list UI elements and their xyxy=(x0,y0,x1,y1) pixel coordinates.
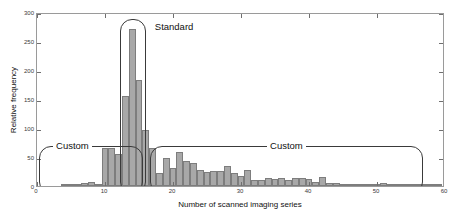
histogram-bar xyxy=(88,182,95,186)
histogram-bar xyxy=(312,182,319,186)
x-tick-mark xyxy=(105,182,106,186)
histogram-bar xyxy=(68,184,75,186)
x-tick-label: 0 xyxy=(34,188,37,194)
histogram-bar xyxy=(278,178,285,186)
histogram-bar xyxy=(183,161,190,186)
x-tick-mark xyxy=(309,14,310,18)
x-axis-label: Number of scanned imaging series xyxy=(36,200,444,209)
histogram-bar xyxy=(197,170,204,186)
annotation-custom-right-label: Custom xyxy=(267,140,306,151)
histogram-bar xyxy=(61,184,68,186)
x-tick-mark xyxy=(377,14,378,18)
annotation-custom-left-label: Custom xyxy=(53,140,92,151)
histogram-bar xyxy=(353,184,360,186)
histogram-bar xyxy=(156,173,163,186)
histogram-bar xyxy=(95,184,102,186)
annotation-standard-label: Standard xyxy=(152,21,197,32)
y-tick-mark xyxy=(37,130,41,131)
histogram-bar xyxy=(204,172,211,187)
y-tick-mark xyxy=(439,130,443,131)
histogram-bar xyxy=(163,158,170,186)
x-tick-label: 50 xyxy=(373,188,380,194)
y-tick-label: 300 xyxy=(24,10,34,16)
histogram-bar xyxy=(81,183,88,186)
x-tick-label: 40 xyxy=(305,188,312,194)
histogram-bar xyxy=(190,163,197,186)
histogram-bar xyxy=(401,184,408,186)
histogram-bar xyxy=(346,184,353,186)
x-tick-mark xyxy=(173,14,174,18)
y-tick-mark xyxy=(37,43,41,44)
y-tick-mark xyxy=(37,159,41,160)
histogram-bar xyxy=(428,184,435,186)
histogram-bar xyxy=(136,80,143,186)
histogram-bar xyxy=(367,184,374,186)
histogram-bar xyxy=(340,184,347,186)
histogram-bar xyxy=(387,184,394,186)
histogram-bar xyxy=(142,130,149,186)
histogram-bar xyxy=(176,152,183,186)
histogram-bar xyxy=(251,180,258,186)
y-tick-mark xyxy=(439,101,443,102)
y-tick-mark xyxy=(439,72,443,73)
histogram-bar xyxy=(231,173,238,186)
y-tick-mark xyxy=(439,43,443,44)
histogram-figure: Relative frequency CustomStandardCustom … xyxy=(0,0,456,216)
histogram-bar xyxy=(122,96,129,186)
histogram-bar xyxy=(272,179,279,186)
plot-area: CustomStandardCustom xyxy=(36,13,444,187)
x-tick-mark xyxy=(377,182,378,186)
histogram-bar xyxy=(224,166,231,186)
y-tick-mark xyxy=(439,159,443,160)
histogram-bar xyxy=(74,184,81,186)
histogram-bar xyxy=(421,184,428,186)
x-tick-mark xyxy=(173,182,174,186)
y-tick-label: 100 xyxy=(24,126,34,132)
x-tick-mark xyxy=(241,14,242,18)
histogram-bar xyxy=(285,180,292,186)
y-tick-mark xyxy=(37,14,41,15)
histogram-bar xyxy=(258,180,265,186)
x-tick-label: 20 xyxy=(169,188,176,194)
histogram-bar xyxy=(217,171,224,186)
x-tick-label: 10 xyxy=(101,188,108,194)
histogram-bar xyxy=(115,154,122,186)
x-tick-mark xyxy=(37,182,38,186)
histogram-bar xyxy=(244,170,251,186)
y-tick-mark xyxy=(439,14,443,15)
x-tick-mark xyxy=(309,182,310,186)
histogram-bar xyxy=(435,184,442,186)
y-axis-label: Relative frequency xyxy=(8,13,20,187)
y-tick-mark xyxy=(37,72,41,73)
histogram-bar xyxy=(380,183,387,186)
histogram-bar xyxy=(102,148,109,186)
x-tick-mark xyxy=(241,182,242,186)
histogram-bar xyxy=(360,184,367,186)
x-tick-label: 30 xyxy=(237,188,244,194)
histogram-bar xyxy=(408,184,415,186)
histogram-bar xyxy=(149,148,156,186)
y-tick-mark xyxy=(37,101,41,102)
histogram-bar xyxy=(299,178,306,186)
histogram-bar xyxy=(265,178,272,186)
histogram-bar xyxy=(394,184,401,186)
histogram-bar xyxy=(326,183,333,186)
y-tick-label: 200 xyxy=(24,68,34,74)
histogram-bar xyxy=(414,184,421,186)
histogram-bar xyxy=(129,29,136,186)
histogram-bar xyxy=(210,171,217,186)
histogram-bar xyxy=(108,148,115,186)
x-tick-mark xyxy=(105,14,106,18)
histogram-bar xyxy=(292,178,299,186)
y-tick-label: 150 xyxy=(24,97,34,103)
y-tick-label: 250 xyxy=(24,39,34,45)
histogram-bar xyxy=(333,183,340,186)
x-tick-label: 60 xyxy=(441,188,448,194)
histogram-bar xyxy=(319,177,326,186)
y-tick-label: 50 xyxy=(27,155,34,161)
